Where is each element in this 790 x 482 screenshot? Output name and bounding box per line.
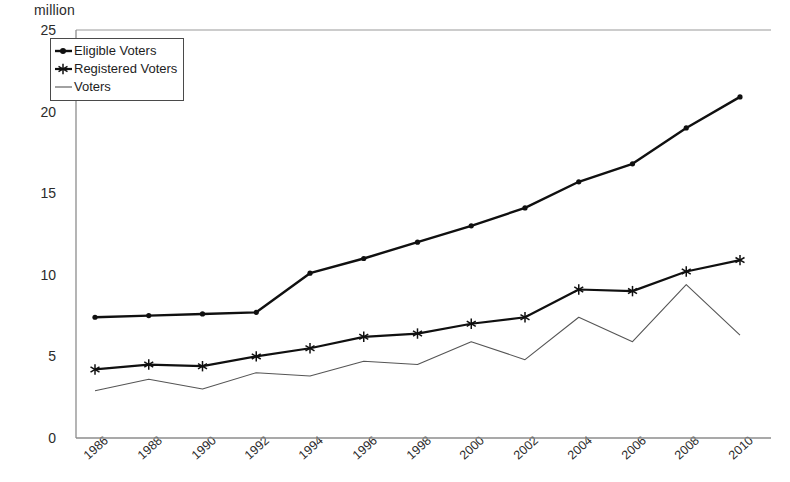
dot-marker <box>92 315 97 320</box>
dot-marker <box>307 271 312 276</box>
dot-marker <box>254 310 259 315</box>
dot-marker <box>55 44 72 58</box>
plain-line-marker <box>55 80 72 94</box>
voter-trend-line-chart: million 2520151050 198619881990199219941… <box>0 0 790 482</box>
dot-marker <box>146 313 151 318</box>
star-marker <box>55 62 72 76</box>
dot-marker <box>200 311 205 316</box>
legend-item-label: Voters <box>74 80 111 94</box>
data-series-layer <box>91 94 745 390</box>
dot-marker <box>469 223 474 228</box>
dot-marker <box>630 161 635 166</box>
legend-item-label: Eligible Voters <box>74 44 156 58</box>
legend-item: Registered Voters <box>55 60 177 78</box>
series-line <box>95 97 740 317</box>
legend-item: Voters <box>55 78 177 96</box>
dot-marker <box>522 205 527 210</box>
dot-marker <box>576 179 581 184</box>
dot-marker <box>737 94 742 99</box>
chart-legend: Eligible VotersRegistered VotersVoters <box>50 38 184 101</box>
dot-marker <box>684 125 689 130</box>
dot-marker <box>361 256 366 261</box>
legend-item-label: Registered Voters <box>74 62 177 76</box>
legend-item: Eligible Voters <box>55 42 177 60</box>
dot-marker <box>415 240 420 245</box>
